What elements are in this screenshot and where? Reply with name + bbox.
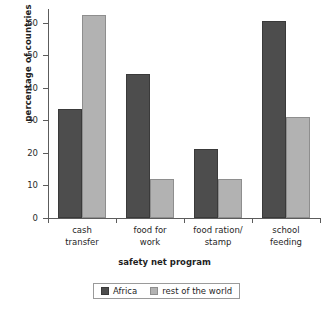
x-group-label-line1: food ration/ [184, 224, 252, 236]
x-tick-3 [252, 218, 253, 223]
x-tick-0 [48, 218, 49, 223]
x-group-label-cash-transfer: cash transfer [48, 224, 116, 248]
bar-rest-of-the-world-food-for-work [150, 179, 174, 218]
chart-legend: Africa rest of the world [93, 283, 240, 299]
x-group-label-line1: school [252, 224, 320, 236]
y-tick-label-30: 30 [14, 116, 38, 125]
bar-rest-of-the-world-cash-transfer [82, 15, 106, 218]
x-tick-4 [320, 218, 321, 223]
y-tick-label-0: 0 [14, 214, 38, 223]
plot-area [48, 10, 320, 218]
y-tick-label-10: 10 [14, 181, 38, 190]
x-group-label-food-for-work: food for work [116, 224, 184, 248]
bar-chart-figure: percentage of countries 0 10 20 30 40 50… [0, 0, 329, 313]
legend-label-rest-of-the-world: rest of the world [162, 286, 232, 296]
y-tick-label-60: 60 [14, 19, 38, 28]
x-group-label-school-feeding: school feeding [252, 224, 320, 248]
x-group-label-line2: transfer [48, 236, 116, 248]
x-group-label-line1: cash [48, 224, 116, 236]
x-tick-1 [116, 218, 117, 223]
y-tick-label-40: 40 [14, 84, 38, 93]
x-group-label-line1: food for [116, 224, 184, 236]
bar-rest-of-the-world-school-feeding [286, 117, 310, 218]
bar-africa-food-ration-stamp [194, 149, 218, 218]
x-group-label-line2: stamp [184, 236, 252, 248]
bar-africa-school-feeding [262, 21, 286, 218]
legend-entry-africa: Africa [101, 286, 137, 296]
x-group-label-line2: feeding [252, 236, 320, 248]
x-group-label-food-ration-stamp: food ration/ stamp [184, 224, 252, 248]
legend-swatch-icon-rest-of-the-world [150, 287, 158, 295]
x-axis-title: safety net program [0, 257, 329, 267]
bar-rest-of-the-world-food-ration-stamp [218, 179, 242, 218]
y-tick-label-50: 50 [14, 51, 38, 60]
legend-entry-rest-of-the-world: rest of the world [150, 286, 232, 296]
legend-label-africa: Africa [113, 286, 137, 296]
bar-africa-cash-transfer [58, 109, 82, 218]
y-tick-label-20: 20 [14, 149, 38, 158]
legend-swatch-icon-africa [101, 287, 109, 295]
x-tick-2 [184, 218, 185, 223]
bar-africa-food-for-work [126, 74, 150, 218]
x-group-label-line2: work [116, 236, 184, 248]
